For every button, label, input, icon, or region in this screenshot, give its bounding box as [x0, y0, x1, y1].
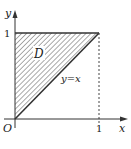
- y-tick-label: 1: [4, 28, 10, 39]
- y-axis-label: y: [4, 7, 12, 20]
- x-axis-arrow-icon: [120, 117, 128, 122]
- x-tick-label: 1: [96, 123, 102, 134]
- y-axis-arrow-icon: [13, 10, 18, 18]
- curve-label: y=x: [60, 73, 81, 84]
- origin-label: O: [3, 122, 12, 135]
- region-diagram: y 1 D y=x O 1 x: [0, 0, 131, 149]
- region-label: D: [33, 47, 44, 61]
- x-axis-label: x: [119, 122, 126, 135]
